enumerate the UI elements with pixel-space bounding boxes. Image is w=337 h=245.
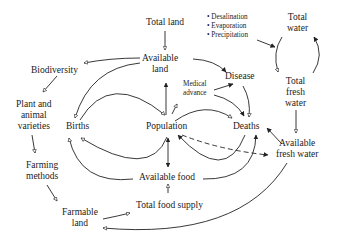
causal-loop-diagram: Total land Available land Biodiversity P… <box>0 0 337 245</box>
node-plant-animal-varieties: Plant and animal varieties <box>16 99 52 132</box>
edge-population-deaths <box>175 110 232 121</box>
node-medical-advance: Medical advance <box>183 80 207 98</box>
node-births: Births <box>66 121 89 132</box>
edge-processes-freshwater <box>257 40 275 47</box>
edge-medical-disease <box>214 84 233 90</box>
edge-freshwater-totalwater <box>313 37 319 73</box>
edge-deaths-population <box>178 135 245 160</box>
edge-availablefood-births <box>69 138 133 180</box>
node-total-land: Total land <box>146 17 184 28</box>
node-farming-methods: Farming methods <box>26 160 58 182</box>
edge-availableland-biodiversity <box>84 58 140 63</box>
node-population: Population <box>146 121 187 132</box>
node-total-food-supply: Total food supply <box>136 200 203 211</box>
edge-biodiversity-plants <box>43 76 57 92</box>
edge-population-medical <box>172 104 177 114</box>
edge-farmable-foodsupply <box>103 213 130 219</box>
node-water-processes: • Desalination • Evaporation • Precipita… <box>207 13 248 40</box>
node-available-land: Available land <box>142 53 178 75</box>
edge-births-population <box>80 94 165 120</box>
edge-availableland-births <box>75 63 140 118</box>
node-biodiversity: Biodiversity <box>31 65 78 76</box>
edge-disease-deaths <box>243 86 249 117</box>
edge-availableland-disease <box>193 59 226 72</box>
edge-farming-farmable <box>47 185 57 201</box>
node-available-food: Available food <box>139 172 195 183</box>
node-available-fresh-water: Available fresh water <box>276 138 318 160</box>
node-disease: Disease <box>225 71 255 82</box>
edge-population-births <box>81 137 167 159</box>
edge-totalwater-freshwater <box>276 37 282 72</box>
node-total-fresh-water: Total fresh water <box>285 76 306 109</box>
node-farmable-land: Farmable land <box>62 207 98 229</box>
edge-plants-farming <box>32 135 35 153</box>
node-deaths: Deaths <box>233 121 259 132</box>
node-total-water: Total water <box>287 12 308 34</box>
edge-medical-deaths <box>214 95 244 116</box>
